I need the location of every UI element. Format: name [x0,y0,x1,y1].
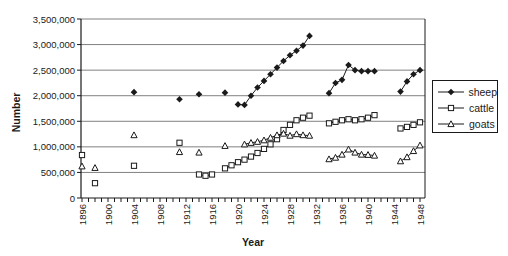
x-axis-tick-label: 1932 [311,204,322,225]
legend-item-label: cattle [469,102,494,114]
cattle-legend-marker-icon [437,103,465,113]
sheep-point-marker [339,77,346,84]
cattle-point-marker [177,140,182,145]
y-axis-ticks: 0500,0001,000,0001,500,0002,000,0002,500… [33,14,81,204]
sheep-point-marker [417,67,424,74]
goats-point-marker [92,165,98,171]
y-axis-tick-label: 2,000,000 [33,90,75,101]
legend-item-label: sheep [468,86,497,98]
cattle-point-marker [229,163,234,168]
x-axis-tick-label: 1908 [155,204,166,225]
sheep-point-marker [448,89,455,96]
x-axis-title: Year [223,236,283,249]
cattle-point-marker [196,172,201,177]
cattle-point-marker [268,142,273,147]
cattle-point-marker [448,105,453,110]
sheep-point-marker [332,80,339,87]
cattle-point-marker [255,150,260,155]
series-goats [79,130,423,170]
sheep-point-marker [241,102,248,109]
sheep-point-marker [358,68,365,75]
goats-point-marker [293,131,299,137]
cattle-point-marker [235,160,240,165]
goats-point-marker [196,149,202,155]
sheep-point-marker [222,89,229,96]
cattle-point-marker [92,181,97,186]
cattle-point-marker [411,122,416,127]
sheep-point-marker [196,91,203,98]
sheep-point-marker [371,68,378,75]
legend-item-goats: goats [433,116,497,132]
cattle-point-marker [398,126,403,131]
y-axis-tick-label: 1,000,000 [33,141,75,152]
cattle-point-marker [79,152,84,157]
goats-point-marker [176,149,182,155]
cattle-point-marker [333,119,338,124]
legend: sheepcattlegoats [432,80,498,133]
y-axis-title: Number [10,88,23,138]
x-axis-tick-label: 1936 [337,204,348,225]
x-axis-tick-label: 1904 [129,204,140,225]
x-axis-tick-label: 1944 [389,204,400,225]
y-axis-tick-label: 0 [70,193,75,204]
sheep-point-marker [397,88,404,95]
legend-item-sheep: sheep [433,84,497,100]
y-axis-tick-label: 3,500,000 [33,14,75,25]
legend-item-label: goats [469,118,495,130]
cattle-point-marker [326,121,331,126]
goats-point-marker [222,143,228,149]
x-axis-ticks: 1896190019041908191219161920192419281932… [77,198,426,225]
cattle-point-marker [352,118,357,123]
y-axis-tick-label: 2,500,000 [33,65,75,76]
x-axis-tick-label: 1916 [207,204,218,225]
cattle-point-marker [372,113,377,118]
cattle-point-marker [248,154,253,159]
cattle-point-marker [287,122,292,127]
cattle-point-marker [294,118,299,123]
goats-point-marker [397,158,403,164]
cattle-point-marker [300,115,305,120]
goats-point-marker [352,149,358,155]
goats-point-marker [267,134,273,140]
y-axis-tick-label: 3,000,000 [33,39,75,50]
sheep-line-segment [401,70,421,91]
y-axis-tick-label: 1,500,000 [33,116,75,127]
cattle-point-marker [346,117,351,122]
cattle-point-marker [209,172,214,177]
chart-container: 0500,0001,000,0001,500,0002,000,0002,500… [0,0,508,256]
goats-point-marker [261,137,267,143]
goats-point-marker [332,154,338,160]
cattle-point-marker [203,173,208,178]
x-axis-tick-label: 1896 [77,204,88,225]
cattle-point-marker [404,124,409,129]
cattle-point-marker [365,115,370,120]
goats-point-marker [131,132,137,138]
x-axis-tick-label: 1940 [363,204,374,225]
cattle-point-marker [222,166,227,171]
cattle-point-marker [261,146,266,151]
legend-item-cattle: cattle [433,100,497,116]
goats-point-marker [417,142,423,148]
sheep-point-marker [365,68,372,75]
cattle-point-marker [131,163,136,168]
sheep-point-marker [131,89,138,96]
sheep-point-marker [306,33,313,40]
axes [81,19,425,198]
sheep-point-marker [176,96,183,103]
x-axis-tick-label: 1924 [259,204,270,225]
x-axis-tick-label: 1900 [103,204,114,225]
y-axis-tick-label: 500,000 [41,167,75,178]
x-axis-tick-label: 1912 [181,204,192,225]
series-cattle [79,113,422,186]
x-axis-tick-label: 1948 [415,204,426,225]
x-axis-tick-label: 1920 [233,204,244,225]
x-axis-tick-label: 1928 [285,204,296,225]
goats-point-marker [79,163,85,169]
goats-legend-marker-icon [437,119,465,129]
cattle-point-marker [417,120,422,125]
cattle-point-marker [339,118,344,123]
cattle-point-marker [242,157,247,162]
sheep-point-marker [235,101,242,108]
cattle-point-marker [359,117,364,122]
sheep-legend-marker-icon [437,87,464,97]
